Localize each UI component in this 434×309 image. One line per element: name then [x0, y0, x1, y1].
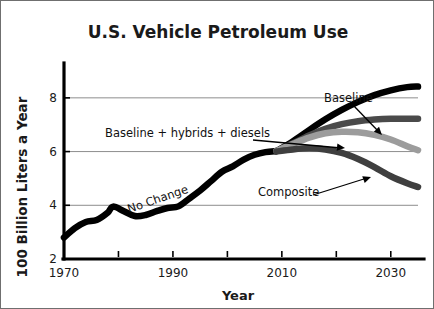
series-annotation: Baseline + hybrids + diesels: [105, 126, 270, 140]
y-tick-label: 8: [49, 91, 57, 105]
chart-figure: U.S. Vehicle Petroleum Use 100 Billion L…: [0, 0, 434, 309]
x-axis-title: Year: [221, 288, 255, 303]
y-tick-label: 6: [49, 145, 57, 159]
y-axis-title: 100 Billion Liters a Year: [14, 96, 30, 277]
series-annotation: Composite: [258, 185, 319, 199]
x-tick-label: 2030: [375, 266, 406, 280]
x-tick-labels: 1970199020102030: [49, 266, 406, 280]
x-tick-label: 2010: [267, 266, 298, 280]
y-tick-label: 2: [49, 252, 57, 266]
series-line: [276, 148, 418, 187]
plot-series-group: [64, 87, 418, 238]
gridlines: [64, 98, 418, 205]
y-tick-label: 4: [49, 198, 57, 212]
arrowhead: [362, 176, 371, 183]
x-tick-label: 1990: [158, 266, 189, 280]
y-tick-labels: 2468: [49, 91, 57, 266]
petroleum-use-line-chart: U.S. Vehicle Petroleum Use 100 Billion L…: [1, 1, 434, 309]
leader-line-composite: [313, 178, 367, 195]
chart-title: U.S. Vehicle Petroleum Use: [88, 22, 349, 42]
series-annotation: Baseline: [324, 91, 373, 105]
x-tick-label: 1970: [49, 266, 80, 280]
